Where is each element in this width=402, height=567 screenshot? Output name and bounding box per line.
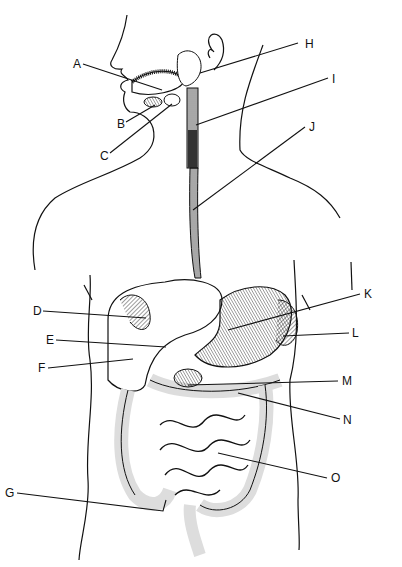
label-j: J [309, 121, 315, 133]
label-d: D [33, 305, 42, 317]
large-intestine [121, 380, 280, 555]
label-a: A [73, 58, 81, 70]
label-f: F [38, 362, 45, 374]
small-intestine [160, 415, 250, 495]
digestive-system-diagram: A B C H I J D E F K L M N O G [0, 0, 402, 567]
anatomy-illustration [0, 0, 402, 567]
label-n: N [343, 414, 352, 426]
label-e: E [46, 334, 54, 346]
label-c: C [100, 150, 109, 162]
label-h: H [305, 38, 314, 50]
label-l: L [352, 327, 359, 339]
label-g: G [5, 487, 14, 499]
label-o: O [331, 472, 340, 484]
esophagus [187, 88, 201, 278]
label-b: B [117, 118, 125, 130]
label-m: M [342, 375, 352, 387]
label-i: I [332, 73, 335, 85]
liver [108, 280, 222, 391]
label-k: K [364, 288, 372, 300]
